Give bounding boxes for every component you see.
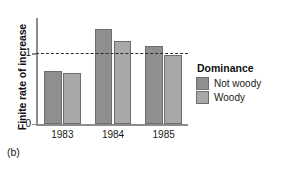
legend-swatch-icon: [196, 91, 209, 104]
legend-title: Dominance: [197, 62, 282, 74]
legend-item: Not woody: [196, 77, 282, 90]
bar: [44, 71, 62, 124]
x-tick-label: 1984: [102, 129, 124, 140]
legend-entries: Not woodyWoody: [196, 77, 282, 104]
legend-item-label: Not woody: [214, 79, 261, 89]
legend-item-label: Woody: [214, 93, 245, 103]
x-axis-line: [36, 124, 188, 126]
y-tick-label: 0: [25, 119, 31, 129]
y-tick-mark: [32, 124, 36, 125]
legend-item: Woody: [196, 91, 282, 104]
x-tick-label: 1985: [153, 129, 175, 140]
bar: [95, 29, 113, 124]
y-tick-label: 1: [25, 48, 31, 58]
panel-label: (b): [7, 146, 20, 158]
x-tick-label: 1983: [51, 129, 73, 140]
bar: [145, 46, 163, 124]
bar: [63, 73, 81, 124]
plot-area: 01 198319841985: [36, 18, 188, 124]
reference-line: [36, 53, 188, 54]
bar-group: [36, 18, 188, 124]
bar: [164, 55, 182, 124]
figure-panel: Finite rate of increase 01 198319841985 …: [0, 0, 284, 169]
legend-swatch-icon: [196, 77, 209, 90]
legend: Dominance Not woodyWoody: [196, 62, 282, 105]
